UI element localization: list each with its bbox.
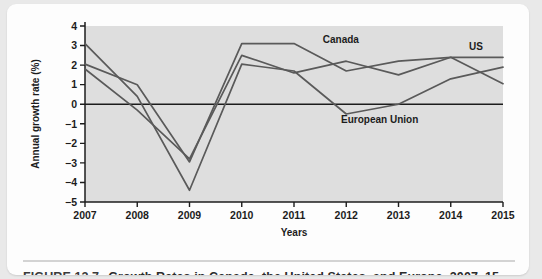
x-tick-label: 2015 (491, 209, 515, 221)
y-tick-label: −5 (65, 196, 77, 208)
y-axis-ticks: 43210−1−2−3−4−5 (65, 20, 85, 208)
series-label-canada: Canada (323, 34, 360, 45)
x-tick-label: 2013 (387, 209, 411, 221)
y-tick-label: −4 (65, 176, 77, 188)
x-tick-label: 2014 (439, 209, 463, 221)
y-tick-label: −1 (65, 118, 77, 130)
y-tick-label: 4 (71, 20, 77, 32)
x-tick-label: 2008 (126, 209, 150, 221)
series-label-european-union: European Union (341, 114, 418, 125)
x-axis-ticks: 200720082009201020112012201320142015 (73, 202, 515, 221)
caption-title: Growth Rates in Canada, the United State… (108, 270, 499, 275)
figure-container: 43210−1−2−3−4−5 200720082009201020112012… (0, 0, 542, 279)
growth-rate-line-chart: 43210−1−2−3−4−5 200720082009201020112012… (7, 4, 529, 240)
x-tick-label: 2010 (230, 209, 254, 221)
y-tick-label: −3 (65, 157, 77, 169)
x-tick-label: 2007 (73, 209, 97, 221)
x-tick-label: 2011 (283, 209, 306, 221)
y-tick-label: 3 (71, 39, 77, 51)
y-tick-label: −2 (65, 137, 77, 149)
x-axis-title: Years (281, 227, 308, 238)
y-tick-label: 1 (71, 78, 77, 90)
y-tick-label: 2 (71, 59, 77, 71)
y-axis-title: Annual growth rate (%) (30, 59, 41, 168)
figure-caption: FIGURE 12.7Growth Rates in Canada, the U… (23, 267, 523, 275)
figure-card: 43210−1−2−3−4−5 200720082009201020112012… (7, 4, 529, 275)
y-tick-label: 0 (71, 98, 77, 110)
chart-area: 43210−1−2−3−4−5 200720082009201020112012… (7, 4, 529, 240)
caption-number: FIGURE 12.7 (23, 270, 99, 275)
x-tick-label: 2012 (335, 209, 359, 221)
series-label-us: US (469, 41, 483, 52)
x-tick-label: 2009 (178, 209, 202, 221)
caption-divider (23, 260, 515, 262)
